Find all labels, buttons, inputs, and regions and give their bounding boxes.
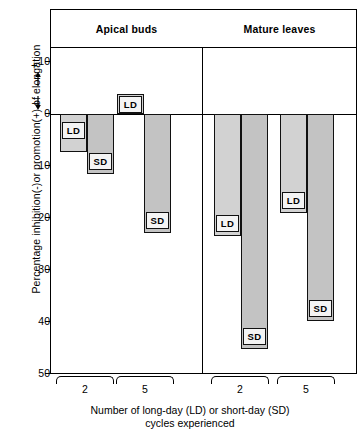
x-group-mature-5: 5 <box>277 374 335 400</box>
bar-label-apical-2-sd: SD <box>89 153 112 170</box>
x-axis-title: Number of long-day (LD) or short-day (SD… <box>30 404 350 430</box>
bar-label-apical-5-sd: SD <box>146 212 169 229</box>
x-axis-title-line2: cycles experienced <box>30 417 350 430</box>
panel-header-band: Apical buds Mature leaves <box>51 10 356 48</box>
bar-mature-2-sd <box>241 114 268 349</box>
bar-label-mature-5-ld: LD <box>282 192 305 209</box>
panel-title-mature-leaves: Mature leaves <box>203 10 356 48</box>
bar-chart-figure: Percentage inhibition(-)or promotion(+) … <box>0 0 363 439</box>
x-group-mature-2: 2 <box>211 374 269 400</box>
panel-divider <box>202 48 203 373</box>
x-group-apical-2: 2 <box>56 374 114 400</box>
x-axis-title-line1: Number of long-day (LD) or short-day (SD… <box>30 404 350 417</box>
plot-frame: Apical buds Mature leaves LD SD LD SD LD… <box>50 9 357 374</box>
panel-title-apical-buds: Apical buds <box>51 10 202 48</box>
x-group-label: 5 <box>277 383 335 395</box>
y-axis-ticks: 10 0 10 20 30 40 50 <box>12 0 50 439</box>
bar-label-mature-2-ld: LD <box>216 215 239 232</box>
x-axis-groups: 2 5 2 5 <box>50 374 357 400</box>
x-group-label: 2 <box>56 383 114 395</box>
bar-mature-5-sd <box>307 114 334 321</box>
x-group-label: 2 <box>211 383 269 395</box>
x-group-label: 5 <box>116 383 174 395</box>
bar-label-apical-2-ld: LD <box>62 122 85 139</box>
bar-label-apical-5-ld: LD <box>119 96 142 113</box>
bar-label-mature-5-sd: SD <box>309 300 332 317</box>
bar-label-mature-2-sd: SD <box>243 328 266 345</box>
x-group-apical-5: 5 <box>116 374 174 400</box>
